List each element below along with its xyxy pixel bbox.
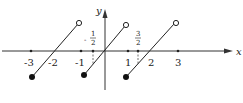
label-three-halves: 3 2 bbox=[135, 30, 141, 47]
closed-endpoint bbox=[29, 74, 35, 80]
open-endpoint bbox=[123, 22, 128, 27]
tick-label-minus-2: -2 bbox=[48, 57, 58, 68]
open-endpoint bbox=[173, 20, 178, 25]
closed-endpoint bbox=[123, 74, 129, 80]
tick-label-minus-3: -3 bbox=[24, 57, 34, 68]
tick-3 bbox=[177, 50, 180, 53]
y-axis-label: y bbox=[95, 5, 102, 16]
svg-text:3: 3 bbox=[136, 30, 140, 38]
label-minus-one-half: - 1 2 bbox=[84, 30, 96, 47]
tick-label-minus-1: -1 bbox=[75, 57, 85, 68]
tick-label-1: 1 bbox=[125, 57, 131, 68]
svg-text:1: 1 bbox=[91, 30, 95, 38]
y-axis-arrow-icon bbox=[103, 9, 108, 18]
segment-1 bbox=[29, 20, 82, 80]
tick-minus-1 bbox=[80, 50, 83, 53]
tick-label-3: 3 bbox=[175, 57, 181, 68]
closed-endpoint bbox=[81, 72, 87, 78]
svg-text:-: - bbox=[84, 36, 87, 44]
tick-1 bbox=[127, 50, 130, 53]
svg-text:2: 2 bbox=[136, 39, 140, 47]
tick-minus-3 bbox=[30, 50, 33, 53]
function-graph: x y -3 -2 -1 1 2 3 - 1 2 3 2 bbox=[0, 0, 243, 103]
segment-3 bbox=[123, 20, 179, 80]
tick-label-2: 2 bbox=[148, 57, 154, 68]
x-axis-label: x bbox=[236, 46, 242, 57]
x-axis-arrow-icon bbox=[224, 49, 233, 54]
open-endpoint bbox=[76, 20, 81, 25]
svg-text:2: 2 bbox=[91, 39, 95, 47]
